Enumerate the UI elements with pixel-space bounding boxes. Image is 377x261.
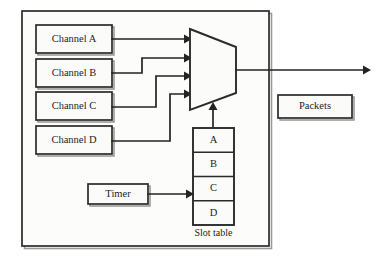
channel-b-label: Channel B (52, 67, 97, 78)
diagram-canvas: Channel A Channel B Channel C Channel D (0, 0, 377, 261)
slot-table-caption: Slot table (194, 227, 233, 238)
slot-row-0: A (210, 134, 218, 145)
slot-table[interactable]: A B C D (193, 128, 234, 225)
channel-box-d[interactable]: Channel D (36, 126, 114, 156)
slot-row-3: D (210, 207, 218, 218)
channel-c-label: Channel C (52, 100, 97, 111)
slot-row-1: B (210, 158, 217, 169)
output-arrowhead (363, 66, 371, 75)
timer-box[interactable]: Timer (88, 184, 150, 206)
channel-box-c[interactable]: Channel C (36, 92, 114, 122)
timer-label: Timer (105, 188, 131, 199)
channel-box-b[interactable]: Channel B (36, 59, 114, 89)
packets-box[interactable]: Packets (278, 95, 354, 120)
mux-block-diagram: Channel A Channel B Channel C Channel D (0, 0, 377, 261)
channel-a-label: Channel A (52, 33, 97, 44)
channel-d-label: Channel D (51, 134, 97, 145)
channel-box-a[interactable]: Channel A (36, 25, 114, 55)
slot-row-2: C (210, 182, 217, 193)
packets-label: Packets (299, 100, 331, 111)
